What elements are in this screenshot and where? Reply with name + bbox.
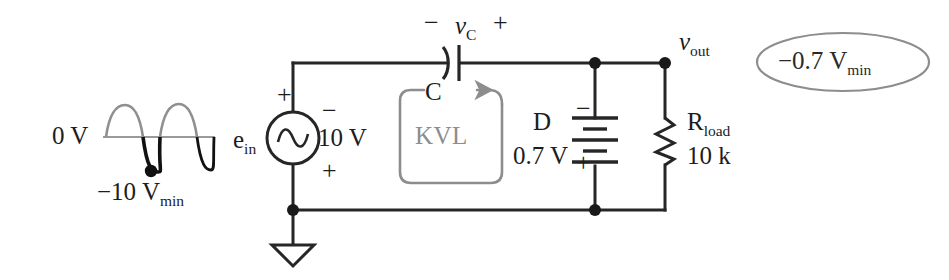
vout-symbol: v	[679, 28, 690, 55]
capacitor-label: C	[425, 78, 442, 106]
load-value-label: 10 k	[687, 142, 731, 170]
waveform-min-sub: min	[160, 192, 184, 209]
load-name-sub: load	[704, 122, 731, 139]
output-callout-sub: min	[847, 61, 871, 78]
node-ground	[287, 204, 299, 216]
diode-plus-sign: +	[576, 150, 591, 176]
source-name-sub: in	[244, 140, 256, 157]
ac-source-symbol	[267, 112, 319, 164]
source-name-prefix: e	[233, 126, 244, 153]
capacitor-minus-sign: −	[424, 10, 439, 36]
source-value-bottom-sign: +	[322, 158, 337, 184]
capacitor-voltage-label: vC	[455, 12, 476, 44]
node-diode-bottom	[589, 204, 601, 216]
source-value-top-sign: −	[322, 98, 337, 124]
load-resistor-symbol	[656, 118, 674, 165]
vout-sub: out	[690, 42, 710, 59]
diode-value-label: 0.7 V	[513, 142, 568, 170]
source-plus-sign: +	[277, 82, 292, 108]
kvl-label: KVL	[415, 122, 468, 150]
load-name-prefix: R	[687, 108, 704, 135]
capacitor-voltage-symbol: v	[455, 12, 466, 39]
node-vout	[659, 57, 671, 69]
waveform-min-value: −10 V	[97, 178, 160, 205]
vout-node-label: vout	[679, 28, 710, 60]
waveform-min-dot	[145, 165, 157, 177]
input-waveform-graphic	[103, 104, 215, 177]
capacitor-voltage-sub: C	[466, 26, 476, 43]
waveform-zero-label: 0 V	[52, 122, 88, 150]
node-diode-top	[589, 57, 601, 69]
output-callout-value: −0.7 V	[778, 47, 847, 74]
source-value-label: 10 V	[318, 124, 367, 152]
waveform-min-label: −10 Vmin	[97, 178, 184, 210]
diode-minus-sign: −	[576, 96, 591, 122]
capacitor-plus-sign: +	[493, 10, 508, 36]
source-name-label: ein	[233, 126, 256, 158]
load-name-label: Rload	[687, 108, 730, 140]
ground-symbol	[272, 245, 314, 266]
output-callout-label: −0.7 Vmin	[778, 47, 871, 79]
circuit-diagram-canvas: 0 V −10 Vmin ein + − 10 V + − vC + C KVL…	[0, 0, 949, 280]
diode-label: D	[533, 108, 551, 136]
